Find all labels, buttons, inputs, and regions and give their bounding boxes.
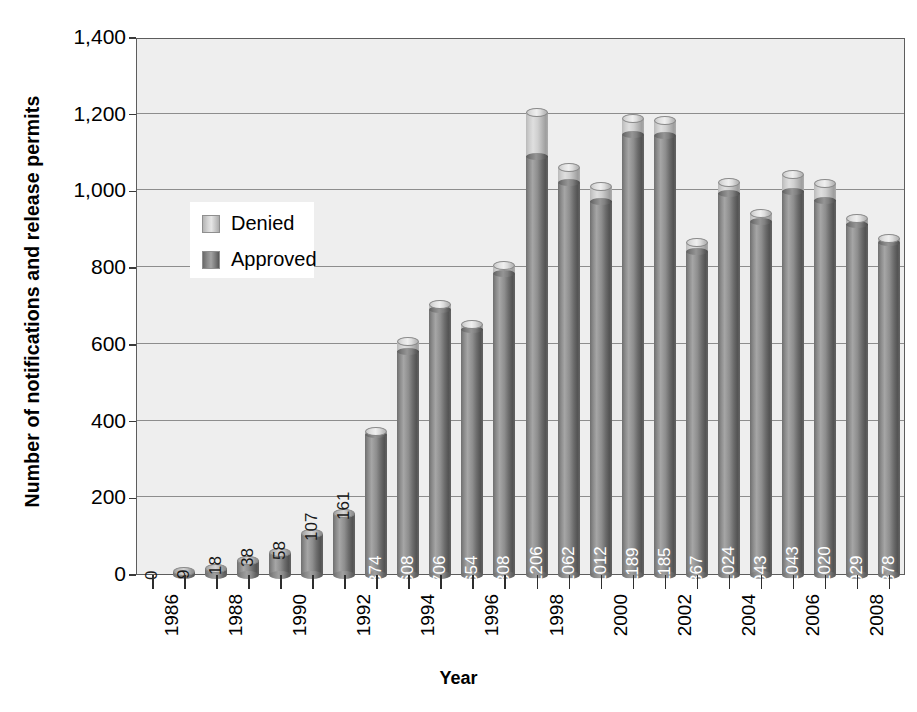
legend-swatch-approved <box>202 251 220 269</box>
x-tick-mark <box>472 575 474 589</box>
x-tick-mark <box>857 575 859 589</box>
x-tick-label: 2008 <box>866 594 888 636</box>
x-tick-mark <box>537 575 539 589</box>
x-tick-label: 1990 <box>289 594 311 636</box>
x-tick-label: 1986 <box>161 594 183 636</box>
x-tick-label: 2004 <box>738 594 760 636</box>
x-tick-mark <box>697 575 699 589</box>
x-tick-mark <box>793 575 795 589</box>
legend-label-approved: Approved <box>231 248 317 271</box>
x-tick-mark <box>665 575 667 589</box>
legend-label-denied: Denied <box>231 212 294 235</box>
x-axis-ticks-and-labels: 1986198819901992199419961998200020022004… <box>0 0 917 712</box>
chart-figure: Number of notifications and release perm… <box>0 0 917 712</box>
x-tick-mark <box>312 575 314 589</box>
x-tick-label: 1998 <box>546 594 568 636</box>
x-tick-mark <box>184 575 186 589</box>
x-tick-label: 1988 <box>225 594 247 636</box>
x-tick-mark <box>408 575 410 589</box>
x-tick-label: 1996 <box>481 594 503 636</box>
x-tick-mark <box>216 575 218 589</box>
x-tick-mark <box>344 575 346 589</box>
x-tick-label: 1992 <box>353 594 375 636</box>
x-tick-mark <box>152 575 154 589</box>
x-tick-mark <box>504 575 506 589</box>
x-tick-label: 2006 <box>802 594 824 636</box>
x-tick-mark <box>280 575 282 589</box>
x-tick-label: 2000 <box>610 594 632 636</box>
x-tick-mark <box>440 575 442 589</box>
x-tick-mark <box>601 575 603 589</box>
chart-legend: Denied Approved <box>190 202 314 278</box>
x-tick-mark <box>633 575 635 589</box>
legend-swatch-denied <box>202 215 220 233</box>
x-tick-mark <box>761 575 763 589</box>
x-tick-mark <box>569 575 571 589</box>
x-tick-mark <box>248 575 250 589</box>
x-tick-mark <box>889 575 891 589</box>
x-tick-label: 1994 <box>417 594 439 636</box>
x-tick-mark <box>825 575 827 589</box>
x-tick-label: 2002 <box>674 594 696 636</box>
legend-item-denied: Denied <box>202 212 294 235</box>
x-axis-title: Year <box>0 668 917 689</box>
x-tick-mark <box>729 575 731 589</box>
legend-item-approved: Approved <box>202 248 317 271</box>
x-tick-mark <box>376 575 378 589</box>
